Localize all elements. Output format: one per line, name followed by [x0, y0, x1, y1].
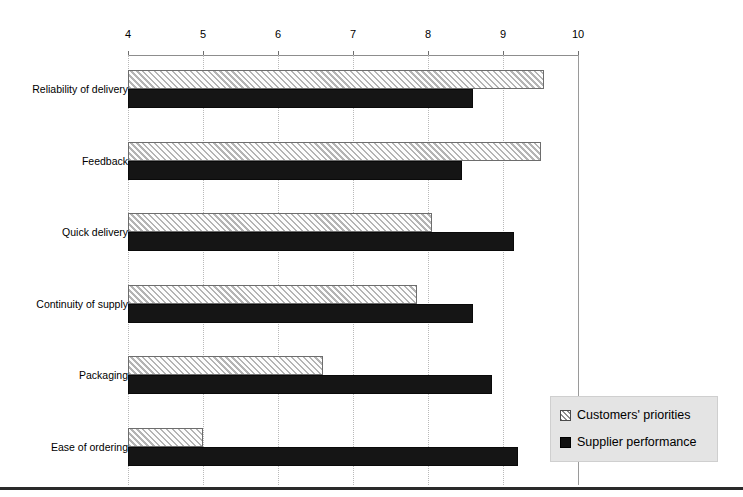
category-label: Packaging — [0, 369, 128, 381]
gridline-7 — [353, 55, 355, 485]
gridline-8 — [428, 55, 430, 485]
bar-performance — [128, 232, 514, 251]
x-axis-tick-label: 9 — [500, 28, 506, 40]
gridline-4 — [128, 55, 130, 485]
gridline-9 — [503, 55, 505, 485]
x-axis-tick-label: 7 — [350, 28, 356, 40]
x-axis-tick-label: 5 — [200, 28, 206, 40]
filled-square-icon — [560, 437, 571, 448]
plot-area — [128, 55, 578, 485]
legend-item-label: Supplier performance — [577, 435, 697, 449]
x-axis-tick-label: 10 — [572, 28, 584, 40]
bar-performance — [128, 161, 462, 180]
bar-priorities — [128, 142, 541, 161]
legend-item-customers-priorities: Customers' priorities — [560, 408, 691, 422]
category-label: Feedback — [0, 155, 128, 167]
gridline-5 — [203, 55, 205, 485]
bar-priorities — [128, 428, 203, 447]
bar-priorities — [128, 285, 417, 304]
gridline-6 — [278, 55, 280, 485]
category-label: Ease of ordering — [0, 441, 128, 453]
legend-item-supplier-performance: Supplier performance — [560, 435, 697, 449]
bar-performance — [128, 89, 473, 108]
legend-item-label: Customers' priorities — [577, 408, 691, 422]
x-axis-tick-label: 6 — [275, 28, 281, 40]
category-label: Reliability of delivery — [0, 83, 128, 95]
category-label: Quick delivery — [0, 226, 128, 238]
x-axis-tick-label: 4 — [125, 28, 131, 40]
chart-legend: Customers' priorities Supplier performan… — [550, 396, 718, 462]
x-axis-tick-label: 8 — [425, 28, 431, 40]
bar-performance — [128, 447, 518, 466]
bar-priorities — [128, 70, 544, 89]
hatched-square-icon — [560, 410, 571, 421]
bar-priorities — [128, 213, 432, 232]
bar-priorities — [128, 356, 323, 375]
page-bottom-rule — [0, 487, 743, 490]
bar-performance — [128, 375, 492, 394]
bar-performance — [128, 304, 473, 323]
category-label: Continuity of supply — [0, 298, 128, 310]
bar-chart: 45678910 Reliability of deliveryFeedback… — [0, 0, 743, 497]
